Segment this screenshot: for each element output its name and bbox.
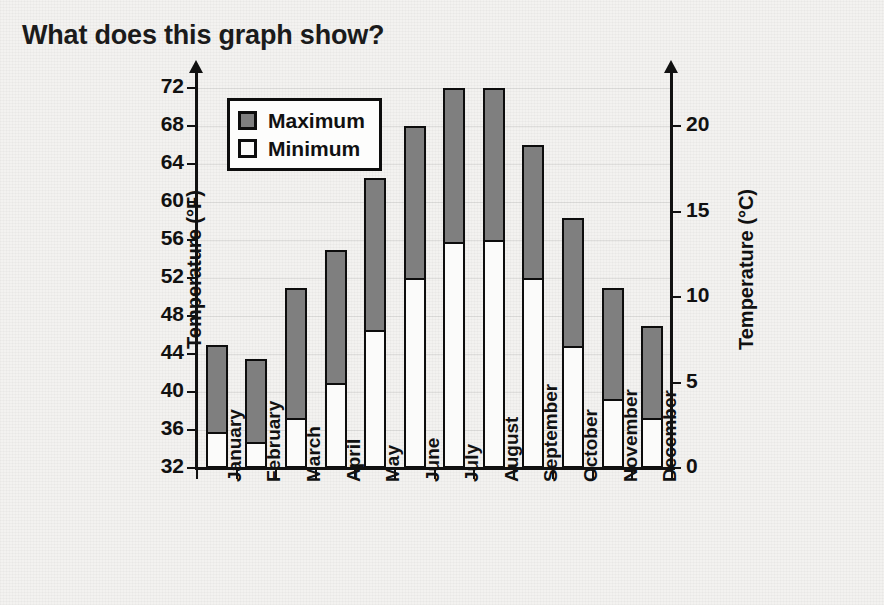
bar-segment-maximum bbox=[404, 126, 426, 280]
y-axis-right-tick-label: 15 bbox=[686, 198, 709, 222]
bar-segment-maximum bbox=[483, 88, 505, 242]
y-axis-right-tick-label: 0 bbox=[686, 454, 698, 478]
x-axis-category-label: April bbox=[343, 439, 365, 482]
bar-segment-maximum bbox=[562, 218, 584, 348]
x-axis-category-label: October bbox=[580, 409, 602, 482]
y-axis-left-tick-label: 52 bbox=[140, 264, 184, 288]
bar-segment-minimum bbox=[443, 242, 465, 468]
y-axis-right-arrow-icon bbox=[664, 60, 678, 73]
y-axis-left-tick-label: 60 bbox=[140, 188, 184, 212]
y-axis-right-tick bbox=[672, 382, 681, 384]
bar-segment-maximum bbox=[602, 288, 624, 401]
chart-legend: Maximum Minimum bbox=[227, 98, 382, 171]
bar-segment-maximum bbox=[364, 178, 386, 332]
y-axis-left-tick-label: 68 bbox=[140, 112, 184, 136]
x-axis-tick bbox=[196, 469, 198, 479]
y-axis-left-tick-label: 32 bbox=[140, 454, 184, 478]
y-axis-left-tick bbox=[187, 163, 196, 165]
y-axis-left-tick bbox=[187, 429, 196, 431]
y-axis-left-tick-label: 56 bbox=[140, 226, 184, 250]
y-axis-left-tick-label: 44 bbox=[140, 340, 184, 364]
bar-group bbox=[404, 88, 426, 468]
y-axis-right-tick-label: 5 bbox=[686, 369, 698, 393]
bar-segment-maximum bbox=[285, 288, 307, 420]
legend-item-minimum: Minimum bbox=[238, 134, 365, 162]
legend-label-minimum: Minimum bbox=[268, 138, 360, 159]
bar-segment-maximum bbox=[443, 88, 465, 244]
y-axis-left-tick-label: 36 bbox=[140, 416, 184, 440]
bar-group bbox=[483, 88, 505, 468]
legend-item-maximum: Maximum bbox=[238, 106, 365, 134]
x-axis-category-label: December bbox=[659, 390, 681, 482]
x-axis-category-label: February bbox=[263, 401, 285, 482]
y-axis-left-tick bbox=[187, 125, 196, 127]
y-axis-left-tick-label: 40 bbox=[140, 378, 184, 402]
white-square-icon bbox=[238, 139, 257, 158]
x-axis-category-label: July bbox=[461, 444, 483, 482]
y-axis-right-tick-label: 10 bbox=[686, 283, 709, 307]
y-axis-right-tick bbox=[672, 296, 681, 298]
y-axis-right-tick bbox=[672, 211, 681, 213]
y-axis-left-tick-label: 64 bbox=[140, 150, 184, 174]
x-axis-category-label: August bbox=[501, 417, 523, 482]
y-axis-left-tick-label: 72 bbox=[140, 74, 184, 98]
y-axis-right-title: Temperature (°C) bbox=[735, 170, 758, 370]
temperature-bar-chart: 7268646056524844403632 20151050 JanuaryF… bbox=[0, 0, 884, 605]
y-axis-right-tick-label: 20 bbox=[686, 112, 709, 136]
x-axis-category-label: March bbox=[303, 426, 325, 482]
y-axis-left-tick-label: 48 bbox=[140, 302, 184, 326]
x-axis-category-label: November bbox=[620, 389, 642, 482]
y-axis-left-arrow-icon bbox=[189, 60, 203, 73]
x-axis-category-label: January bbox=[224, 409, 246, 482]
gray-square-icon bbox=[238, 111, 257, 130]
x-axis-category-label: June bbox=[422, 438, 444, 482]
x-axis-category-label: September bbox=[540, 384, 562, 482]
y-axis-left-tick bbox=[187, 87, 196, 89]
x-axis-category-label: May bbox=[382, 445, 404, 482]
bar-segment-maximum bbox=[325, 250, 347, 385]
y-axis-right-tick bbox=[672, 125, 681, 127]
y-axis-left-title: Temperature (°F) bbox=[183, 170, 206, 370]
legend-label-maximum: Maximum bbox=[268, 110, 365, 131]
bar-segment-maximum bbox=[522, 145, 544, 280]
y-axis-left-tick bbox=[187, 391, 196, 393]
y-axis-left-tick bbox=[187, 467, 196, 469]
bar-group bbox=[443, 88, 465, 468]
